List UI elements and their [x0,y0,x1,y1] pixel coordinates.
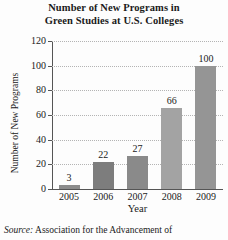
y-tick-label: 120 [31,36,46,46]
bar-2007: 27 [127,156,148,189]
chart-title-line-2: Green Studies at U.S. Colleges [14,15,214,28]
plot-area: 020406080100120 3222766100 [52,41,223,189]
bar-value-label: 22 [98,150,108,160]
bar-2008: 66 [161,108,182,189]
y-tick-label: 80 [36,85,46,95]
y-tick-mark [48,115,52,116]
chart-title: Number of New Programs in Green Studies … [14,2,214,27]
y-tick-mark [48,140,52,141]
y-tick-label: 60 [36,110,46,120]
chart-title-line-1: Number of New Programs in [14,2,214,15]
y-tick-mark [48,189,52,190]
bar-2005: 3 [59,185,80,189]
bar-value-label: 66 [167,96,177,106]
y-tick-mark [48,90,52,91]
x-axis-line [52,189,223,190]
bar-value-label: 3 [67,173,72,183]
y-tick-mark [48,41,52,42]
bar-2009: 100 [195,66,216,189]
chart-figure: Number of New Programs in Green Studies … [0,0,228,240]
bar-2006: 22 [93,162,114,189]
y-tick-label: 20 [36,159,46,169]
y-tick-label: 100 [31,61,46,71]
y-axis-title: Number of New Programs [10,58,20,188]
y-tick-label: 40 [36,135,46,145]
source-label: Source: [4,225,33,235]
y-tick-label: 0 [41,184,46,194]
gridline [52,41,223,42]
y-tick-mark [48,164,52,165]
x-axis-title: Year [52,203,223,215]
y-tick-mark [48,66,52,67]
source-text: Association for the Advancement of [35,225,172,235]
bar-value-label: 100 [198,54,213,64]
x-tick-label-2009: 2009 [186,191,226,202]
source-note: Source: Association for the Advancement … [4,224,228,236]
bar-value-label: 27 [133,144,143,154]
